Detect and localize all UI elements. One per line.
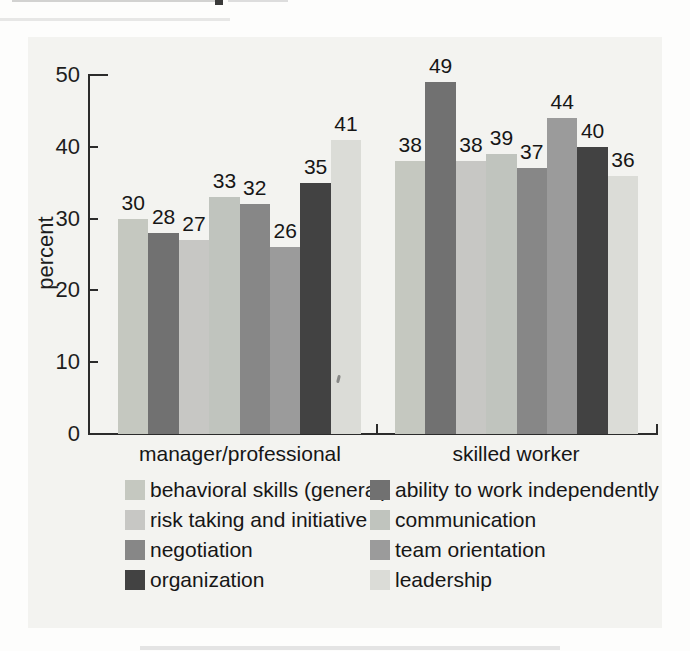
group-label-skilled-worker: skilled worker <box>386 442 646 466</box>
value-label-skilled-worker-team-orientation: 44 <box>540 90 584 114</box>
bar-skilled-worker-negotiation <box>517 168 547 434</box>
value-label-manager-professional-leadership: 41 <box>324 112 368 136</box>
bar-manager-professional-behavioral-skills-general <box>118 219 148 434</box>
bar-manager-professional-ability-to-work-independently <box>148 233 178 434</box>
legend-label-leadership: leadership <box>395 569 492 593</box>
legend-label-team-orientation: team orientation <box>395 539 546 563</box>
y-tick-mark-10 <box>90 361 98 363</box>
bar-manager-professional-team-orientation <box>270 247 300 434</box>
y-tick-label-30: 30 <box>36 206 80 232</box>
bar-manager-professional-organization <box>300 183 330 434</box>
cropped-text-artifact-top <box>12 0 217 2</box>
y-tick-mark-20 <box>90 289 98 291</box>
legend-swatch-team-orientation <box>370 540 390 560</box>
cropped-text-artifact-speck <box>215 0 223 5</box>
bar-skilled-worker-team-orientation <box>547 118 577 434</box>
y-tick-label-20: 20 <box>36 277 80 303</box>
legend-swatch-risk-taking-and-initiative <box>125 510 145 530</box>
cropped-text-artifact-bottom <box>140 646 560 650</box>
bar-manager-professional-communication <box>209 197 239 434</box>
cropped-text-artifact-faint <box>0 18 230 21</box>
legend-swatch-organization <box>125 570 145 590</box>
scanned-chart-page: percent 01020304050 30382849273833393237… <box>0 0 690 651</box>
bar-skilled-worker-communication <box>486 154 516 434</box>
bar-skilled-worker-leadership <box>608 176 638 434</box>
group-label-manager-professional: manager/professional <box>110 442 370 466</box>
y-axis-line <box>88 74 90 435</box>
bar-skilled-worker-risk-taking-and-initiative <box>456 161 486 434</box>
legend-swatch-behavioral-skills-general <box>125 480 145 500</box>
y-tick-label-10: 10 <box>36 349 80 375</box>
x-axis-group-divider-tick <box>376 424 378 433</box>
value-label-skilled-worker-organization: 40 <box>570 119 614 143</box>
legend-label-negotiation: negotiation <box>150 539 253 563</box>
legend-swatch-negotiation <box>125 540 145 560</box>
legend-swatch-ability-to-work-independently <box>370 480 390 500</box>
legend-label-organization: organization <box>150 569 264 593</box>
legend-swatch-leadership <box>370 570 390 590</box>
bar-manager-professional-leadership <box>331 140 361 434</box>
y-axis-top-tick <box>88 74 108 76</box>
legend-label-ability-to-work-independently: ability to work independently <box>395 479 659 503</box>
bar-skilled-worker-organization <box>577 147 607 434</box>
y-tick-label-50: 50 <box>36 62 80 88</box>
y-tick-mark-40 <box>90 146 98 148</box>
legend-label-behavioral-skills-general: behavioral skills (general) <box>150 479 388 503</box>
y-tick-mark-30 <box>90 218 98 220</box>
bar-manager-professional-risk-taking-and-initiative <box>179 240 209 434</box>
value-label-skilled-worker-leadership: 36 <box>601 148 645 172</box>
value-label-manager-professional-negotiation: 32 <box>233 176 277 200</box>
legend-swatch-communication <box>370 510 390 530</box>
y-tick-label-0: 0 <box>36 421 80 447</box>
value-label-skilled-worker-ability-to-work-independently: 49 <box>418 54 462 78</box>
cropped-text-artifact-top-2 <box>228 0 288 2</box>
y-tick-label-40: 40 <box>36 134 80 160</box>
x-axis-end-tick <box>656 424 658 433</box>
legend-label-communication: communication <box>395 509 536 533</box>
legend-label-risk-taking-and-initiative: risk taking and initiative <box>150 509 367 533</box>
bar-skilled-worker-behavioral-skills-general <box>395 161 425 434</box>
